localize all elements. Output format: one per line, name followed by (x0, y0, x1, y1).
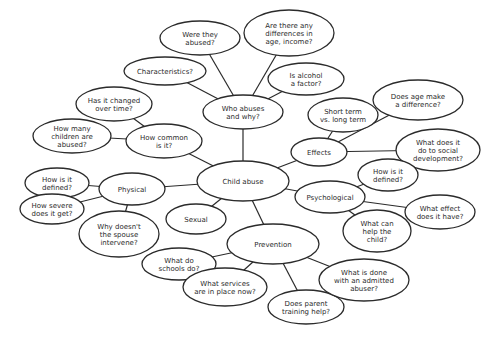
node-label: Effects (307, 149, 331, 157)
node-admitted-abuser: What is donewith an admittedabuser? (319, 259, 409, 301)
node-changed-over-time: Has it changedover time? (76, 87, 152, 121)
node-psychological: Psychological (295, 181, 365, 213)
node-label: What is done (341, 269, 387, 277)
node-label: child? (367, 236, 388, 244)
node-label: Characteristics? (137, 68, 193, 76)
node-characteristics: Characteristics? (124, 57, 206, 85)
node-label: the spouse (100, 231, 138, 239)
node-were-they-abused: Were theyabused? (160, 21, 240, 55)
node-services: What servicesare in place now? (183, 268, 267, 306)
node-label: abused? (185, 39, 215, 47)
node-label: Why doesn't (97, 223, 141, 231)
node-label: intervene? (100, 239, 138, 247)
node-label: is it? (156, 142, 173, 150)
nodes-layer: Child abuseWho abusesand why?Were theyab… (20, 10, 480, 324)
node-label: vs. long term (320, 116, 366, 124)
node-help-child: What canhelp thechild? (343, 210, 411, 252)
node-label: abused? (57, 141, 87, 149)
node-who-abuses: Who abusesand why? (203, 95, 283, 129)
node-label: Short term (324, 108, 362, 116)
node-label: age, income? (266, 38, 313, 46)
node-label: Were they (182, 31, 218, 39)
node-label: with an admitted (334, 277, 394, 285)
node-spouse-intervene: Why doesn'tthe spouseintervene? (79, 211, 159, 257)
node-label: differences in (265, 30, 312, 38)
node-label: Who abuses (222, 105, 265, 113)
node-label: What effect (420, 205, 461, 213)
node-label: How is it (42, 176, 72, 184)
node-child-abuse: Child abuse (197, 161, 289, 201)
node-label: Does age make (391, 93, 445, 101)
node-label: What can (360, 220, 393, 228)
node-label: are in place now? (194, 288, 256, 296)
node-label: Prevention (254, 241, 291, 249)
node-label: over time? (95, 105, 133, 113)
node-label: Has it changed (88, 97, 141, 105)
node-age-difference: Does age makea difference? (373, 80, 463, 120)
node-label: children are (51, 133, 93, 141)
node-label: How severe (32, 202, 73, 210)
node-short-long-term: Short termvs. long term (308, 98, 378, 132)
node-label: Child abuse (222, 178, 263, 186)
node-label: How is it (373, 168, 403, 176)
node-label: What do (164, 257, 193, 265)
node-label: training help? (282, 308, 330, 316)
node-alcohol: Is alcohola factor? (268, 63, 344, 95)
node-label: does it have? (417, 213, 464, 221)
node-label: What does it (416, 139, 460, 147)
node-label: schools do? (159, 265, 200, 273)
node-label: Is alcohol (290, 72, 323, 80)
node-label: Psychological (306, 194, 353, 202)
mind-map-diagram: Child abuseWho abusesand why?Were theyab… (0, 0, 493, 344)
node-label: does it get? (31, 210, 72, 218)
node-label: How many (53, 125, 90, 133)
node-label: defined? (42, 184, 72, 192)
node-label: a factor? (291, 80, 322, 88)
node-label: do to social (418, 147, 458, 155)
node-prevention: Prevention (227, 224, 319, 264)
node-label: defined? (373, 176, 403, 184)
node-sexual: Sexual (166, 204, 226, 234)
node-psych-defined: How is itdefined? (358, 159, 418, 191)
node-label: help the (363, 228, 392, 236)
node-label: Does parent (285, 300, 328, 308)
node-label: and why? (226, 113, 260, 121)
node-effects: Effects (291, 138, 347, 166)
node-differences: Are there anydifferences inage, income? (244, 10, 334, 56)
node-label: development? (413, 155, 463, 163)
node-label: abuser? (350, 285, 378, 293)
node-label: Sexual (184, 216, 207, 224)
node-how-common: How commonis it? (126, 124, 202, 158)
node-what-effect: What effectdoes it have? (405, 195, 475, 229)
node-physical: Physical (99, 173, 165, 205)
node-label: How common (140, 134, 188, 142)
node-how-many: How manychildren areabused? (33, 119, 111, 153)
node-phys-defined: How is itdefined? (25, 168, 89, 198)
mind-map-canvas: Child abuseWho abusesand why?Were theyab… (0, 0, 493, 344)
node-label: What services (200, 280, 250, 288)
node-label: Are there any (265, 22, 313, 30)
node-how-severe: How severedoes it get? (20, 194, 84, 224)
node-label: Physical (118, 186, 147, 194)
node-label: a difference? (395, 101, 441, 109)
